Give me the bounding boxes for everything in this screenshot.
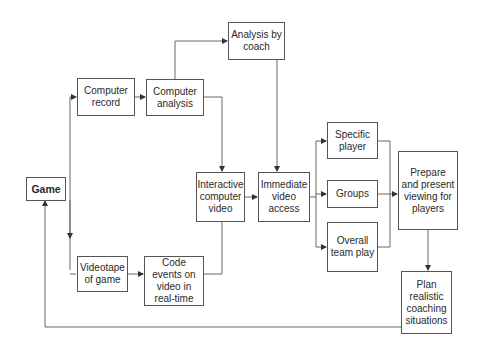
node-label: Specific player — [330, 129, 375, 153]
node-immediate-video-access: Immediate video access — [258, 172, 310, 222]
node-label: Code events on video in real-time — [147, 257, 201, 305]
node-computer-analysis: Computer analysis — [146, 79, 204, 116]
node-label: Overall team play — [330, 235, 375, 259]
coaching-analysis-flowchart: Game Computer record Computer analysis A… — [0, 0, 482, 349]
node-label: Interactive computer video — [197, 179, 243, 215]
node-code-events: Code events on video in real-time — [144, 256, 204, 306]
node-label: Computer analysis — [149, 86, 201, 110]
node-computer-record: Computer record — [77, 78, 135, 116]
node-plan-coaching: Plan realistic coaching situations — [401, 271, 452, 334]
node-label: Analysis by coach — [231, 29, 282, 53]
node-overall-team-play: Overall team play — [327, 222, 378, 272]
node-prepare-viewing: Prepare and present viewing for players — [398, 151, 458, 230]
node-analysis-by-coach: Analysis by coach — [228, 22, 285, 60]
node-groups: Groups — [327, 180, 378, 208]
node-game: Game — [26, 177, 66, 201]
node-videotape-of-game: Videotape of game — [77, 256, 128, 292]
node-label: Game — [31, 183, 60, 195]
node-label: Prepare and present viewing for players — [401, 167, 455, 215]
node-label: Computer record — [80, 85, 132, 109]
node-specific-player: Specific player — [327, 122, 378, 159]
node-label: Immediate video access — [261, 179, 308, 215]
node-label: Groups — [336, 188, 369, 200]
node-label: Plan realistic coaching situations — [404, 279, 449, 327]
node-label: Videotape of game — [80, 262, 125, 286]
node-interactive-computer-video: Interactive computer video — [196, 172, 245, 222]
